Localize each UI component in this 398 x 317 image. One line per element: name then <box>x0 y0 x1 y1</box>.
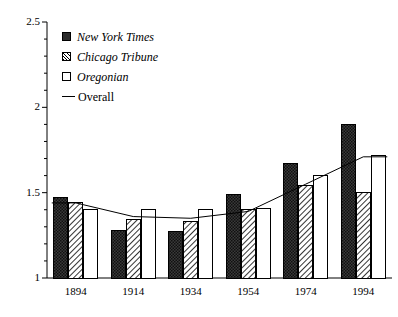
y-axis-tick-label: 1 <box>0 272 40 283</box>
bar <box>141 210 155 278</box>
chart-container: 2.521.51 189419141934195419741994 New Yo… <box>0 0 398 317</box>
line-segment-icon <box>62 92 75 101</box>
legend-item-new-york-times[interactable]: New York Times <box>62 27 212 46</box>
bar <box>284 164 298 278</box>
bar <box>256 208 270 278</box>
legend-item-overall[interactable]: Overall <box>62 87 212 106</box>
x-axis-tick-label: 1894 <box>46 286 106 297</box>
legend-item-chicago-tribune[interactable]: Chicago Tribune <box>62 47 212 66</box>
bar <box>126 220 140 278</box>
legend-label-overall: Overall <box>78 91 114 103</box>
bar <box>169 232 183 278</box>
overall-trend-line <box>52 157 388 218</box>
x-axis-tick-label: 1914 <box>103 286 163 297</box>
bar <box>371 155 385 278</box>
bar <box>199 210 213 278</box>
legend-label-chicago-tribune: Chicago Tribune <box>77 51 158 63</box>
x-axis-tick-label: 1974 <box>276 286 336 297</box>
y-axis-tick-label: 1.5 <box>0 187 40 198</box>
bar <box>54 198 68 278</box>
bar <box>241 210 255 278</box>
bar <box>184 222 198 278</box>
y-axis-tick-label: 2 <box>0 101 40 112</box>
bar <box>111 230 125 278</box>
y-axis-tick-marks <box>42 22 47 278</box>
open-square-icon <box>62 72 71 81</box>
solid-square-icon <box>62 32 71 41</box>
x-axis-tick-label: 1994 <box>333 286 393 297</box>
x-axis-tick-label: 1934 <box>161 286 221 297</box>
bar <box>69 203 83 278</box>
bar <box>84 210 98 278</box>
legend-label-new-york-times: New York Times <box>77 31 154 43</box>
hatched-square-icon <box>62 52 71 61</box>
bar <box>226 194 240 278</box>
legend-label-oregonian: Oregonian <box>77 71 129 83</box>
bar <box>341 124 355 278</box>
bar <box>314 176 328 278</box>
chart-legend: New York Times Chicago Tribune Oregonian… <box>62 27 212 107</box>
bars-layer <box>54 124 386 278</box>
legend-item-oregonian[interactable]: Oregonian <box>62 67 212 86</box>
bar <box>356 193 370 278</box>
x-axis-tick-label: 1954 <box>218 286 278 297</box>
bar <box>299 186 313 278</box>
y-axis-tick-label: 2.5 <box>0 16 40 27</box>
